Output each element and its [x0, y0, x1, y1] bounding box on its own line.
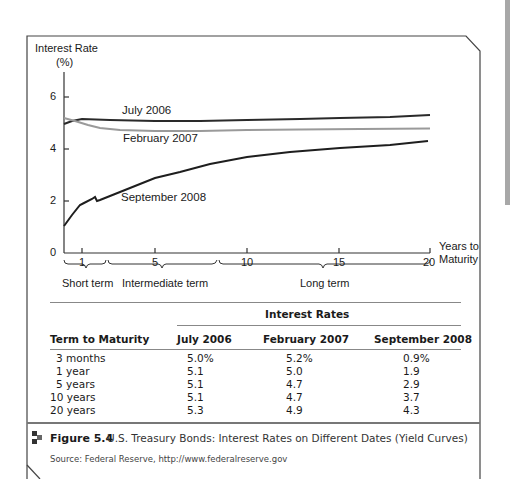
cell-term: 1 year	[56, 365, 89, 377]
figure-source: Source: Federal Reserve, http://www.fede…	[50, 454, 287, 464]
figure-marker-icon	[32, 431, 46, 445]
y-tick-2: 2	[50, 194, 56, 206]
label-february-2007: February 2007	[123, 132, 198, 144]
cell-september-2008: 2.9	[403, 378, 420, 390]
y-axis-title: Interest Rate	[35, 42, 98, 54]
y-tick-4: 4	[50, 142, 56, 154]
label-intermediate-term: Intermediate term	[122, 277, 208, 289]
col-header-term: Term to Maturity	[50, 333, 149, 345]
cell-term: 20 years	[50, 404, 96, 416]
figure-title: U.S. Treasury Bonds: Interest Rates on D…	[107, 432, 468, 444]
x-axis-title-line1: Years to	[439, 240, 479, 252]
cell-february-2007: 5.0	[286, 365, 303, 377]
cell-september-2008: 1.9	[403, 365, 420, 377]
caption-divider	[27, 422, 480, 424]
label-long-term: Long term	[300, 277, 350, 289]
x-tick-1: 1	[79, 256, 85, 268]
table-header-rule	[50, 349, 461, 350]
table-group-header: Interest Rates	[265, 308, 349, 320]
x-tick-15: 15	[333, 256, 345, 268]
cell-july-2006: 5.1	[187, 391, 204, 403]
cell-july-2006: 5.1	[187, 378, 204, 390]
label-short-term: Short term	[62, 277, 113, 289]
x-tick-10: 10	[241, 256, 253, 268]
series-september-2008	[64, 141, 428, 226]
y-tick-0: 0	[50, 246, 56, 258]
label-july-2006: July 2006	[122, 104, 171, 116]
table-top-rule	[50, 302, 461, 303]
cell-term: 10 years	[50, 391, 96, 403]
cell-september-2008: 4.3	[403, 404, 420, 416]
x-tick-20: 20	[423, 256, 435, 268]
series-july-2006	[64, 115, 430, 124]
col-header-february-2007: February 2007	[263, 333, 349, 345]
cell-term: 5 years	[56, 378, 95, 390]
col-header-july-2006: July 2006	[177, 333, 232, 345]
cell-september-2008: 0.9%	[403, 352, 430, 364]
figure-number: Figure 5.4	[50, 432, 113, 445]
cell-february-2007: 5.2%	[286, 352, 313, 364]
cell-february-2007: 4.7	[286, 378, 303, 390]
cell-july-2006: 5.0%	[187, 352, 214, 364]
y-tick-6: 6	[50, 90, 56, 102]
x-tick-5: 5	[152, 256, 158, 268]
col-header-september-2008: September 2008	[374, 333, 472, 345]
cell-september-2008: 3.7	[403, 391, 420, 403]
y-axis-unit: (%)	[56, 56, 73, 68]
x-axis-title-line2: Maturity	[439, 253, 478, 265]
x-axis	[64, 248, 430, 253]
cell-july-2006: 5.1	[187, 365, 204, 377]
cell-february-2007: 4.7	[286, 391, 303, 403]
table-group-rule	[177, 325, 461, 326]
cell-february-2007: 4.9	[286, 404, 303, 416]
cell-term: 3 months	[56, 352, 106, 364]
label-september-2008: September 2008	[121, 191, 206, 203]
cell-july-2006: 5.3	[187, 404, 204, 416]
